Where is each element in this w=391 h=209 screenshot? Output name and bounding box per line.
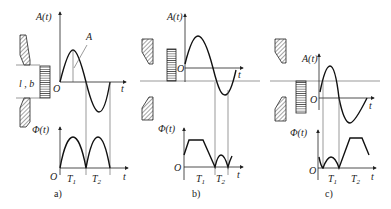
a-t-label: A(t)	[166, 11, 183, 23]
origin-label: O	[177, 63, 184, 74]
phi-t-label: Φ(t)	[158, 123, 176, 135]
diagram-canvas: l , b A(t) O t A Φ(t) O T1 T2 t a) A(t)	[0, 0, 391, 209]
gap-label: l , b	[19, 78, 34, 89]
origin-label: O	[174, 162, 181, 173]
t-axis-label: t	[123, 171, 126, 182]
a-t-label: A(t)	[35, 11, 52, 23]
t-axis-label: t	[369, 100, 372, 111]
t-axis-label: t	[238, 69, 241, 80]
panel-b: A(t) O t Φ(t) O T1 T2 t b)	[140, 11, 260, 200]
t2-label: T2	[351, 173, 361, 186]
amplitude-curve	[320, 66, 367, 123]
flux-curve	[319, 138, 369, 168]
lower-pole-piece	[275, 97, 286, 121]
origin-label: O	[309, 165, 316, 176]
lower-pole-piece	[20, 98, 30, 127]
caption-a: a)	[54, 188, 62, 200]
caption-c: c)	[325, 188, 333, 200]
panel-a: l , b A(t) O t A Φ(t) O T1 T2 t a)	[16, 11, 128, 200]
t2-label: T2	[92, 173, 102, 186]
phi-t-label: Φ(t)	[290, 127, 308, 139]
origin-label: O	[53, 83, 60, 94]
rotor-tooth	[40, 66, 50, 98]
t1-label: T1	[67, 173, 76, 186]
t-axis-label: t	[237, 169, 240, 180]
panel-c: A(t) O t Φ(t) O T1 T2 t c)	[270, 39, 380, 200]
upper-pole-piece	[275, 39, 286, 63]
caption-b: b)	[192, 188, 200, 200]
upper-pole-piece	[142, 39, 153, 64]
t-axis-label: t	[371, 171, 374, 182]
rotor-tooth	[167, 49, 176, 81]
amplitude-curve	[60, 50, 110, 112]
flux-curve	[184, 140, 232, 167]
lower-pole-piece	[142, 97, 153, 120]
t-axis-label: t	[121, 83, 124, 94]
amplitude-label: A	[85, 31, 93, 42]
flux-curve	[60, 137, 110, 168]
t1-label: T1	[196, 173, 205, 186]
origin-label: O	[50, 171, 57, 182]
upper-pole-piece	[20, 35, 30, 65]
a-t-label: A(t)	[301, 53, 318, 65]
origin-label: O	[310, 94, 317, 105]
t1-label: T1	[328, 173, 337, 186]
t2-label: T2	[216, 173, 226, 186]
phi-t-label: Φ(t)	[32, 124, 50, 136]
rotor-tooth	[296, 81, 306, 113]
amplitude-curve	[185, 36, 236, 95]
